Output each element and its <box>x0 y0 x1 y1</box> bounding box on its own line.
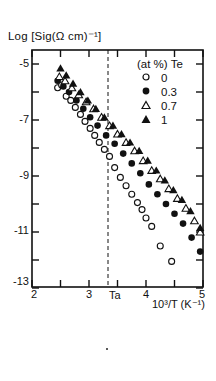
legend-item: 0.3 <box>137 85 183 99</box>
ta-annotation: Ta <box>109 289 121 301</box>
data-point <box>128 160 135 167</box>
data-point <box>120 150 127 157</box>
data-point <box>77 111 83 117</box>
data-point <box>137 170 144 177</box>
data-point <box>134 200 140 206</box>
y-tick-label: -13 <box>3 275 29 287</box>
data-point <box>82 118 88 124</box>
data-point <box>68 97 74 103</box>
y-tick-label: -9 <box>3 169 29 181</box>
data-point <box>80 106 87 113</box>
data-point <box>72 104 78 110</box>
data-point <box>101 146 107 152</box>
y-axis-label: Log [Sig(Ω cm)⁻¹] <box>8 29 101 43</box>
data-point <box>103 132 110 139</box>
data-point <box>56 64 64 71</box>
data-point <box>157 243 163 249</box>
stray-dot <box>106 348 108 350</box>
data-point <box>112 165 118 171</box>
data-point <box>76 88 84 95</box>
open-circle-icon <box>137 72 155 84</box>
legend-item: 0.7 <box>137 99 183 113</box>
x-tick-label: 3 <box>86 288 92 300</box>
data-point <box>154 191 161 198</box>
data-point <box>87 114 94 121</box>
legend: (at %) Te 0 0.3 0.7 1 <box>137 58 183 127</box>
data-point <box>143 215 149 221</box>
data-point <box>180 220 187 227</box>
legend-item: 0 <box>137 71 183 85</box>
data-point <box>123 183 129 189</box>
data-point <box>182 205 190 212</box>
data-point <box>62 71 70 78</box>
data-point <box>94 122 101 129</box>
legend-title: (at %) Te <box>137 58 183 70</box>
data-point <box>111 141 118 148</box>
data-point <box>129 191 135 197</box>
y-tick-label: -11 <box>3 224 29 236</box>
data-point <box>188 234 195 241</box>
y-tick-label: -7 <box>3 113 29 125</box>
data-point <box>191 217 199 224</box>
filled-circle-icon <box>137 86 155 98</box>
x-axis-label: 10³/T (K⁻¹) <box>152 298 205 311</box>
data-point <box>107 153 113 159</box>
open-triangle-icon <box>137 100 155 112</box>
data-point <box>87 125 93 131</box>
x-tick-label: 4 <box>143 288 149 300</box>
chart-canvas <box>0 0 216 381</box>
filled-triangle-icon <box>137 114 155 126</box>
data-point <box>117 174 123 180</box>
data-point <box>56 73 64 80</box>
legend-item: 1 <box>137 113 183 127</box>
data-point <box>149 223 155 229</box>
data-point <box>197 248 204 255</box>
data-point <box>171 211 178 218</box>
y-tick-label: -5 <box>3 57 29 69</box>
data-point <box>96 139 102 145</box>
data-point <box>146 181 153 188</box>
data-point <box>69 80 77 87</box>
data-point <box>139 207 145 213</box>
data-point <box>169 258 175 264</box>
data-point <box>92 132 98 138</box>
x-tick-label: 2 <box>31 288 37 300</box>
data-point <box>163 201 170 208</box>
